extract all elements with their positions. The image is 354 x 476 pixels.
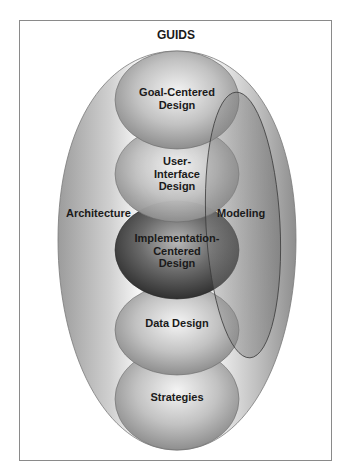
sphere-ui-label: User- Interface Design	[127, 155, 227, 193]
sphere-ui-line1: User-	[127, 155, 227, 168]
architecture-label: Architecture	[66, 207, 131, 220]
sphere-impl-label: Implementation- Centered Design	[117, 232, 237, 270]
sphere-strategies-label: Strategies	[127, 391, 227, 404]
modeling-label: Modeling	[217, 207, 265, 220]
sphere-ui-line2: Interface	[127, 168, 227, 181]
sphere-goal-label: Goal-Centered Design	[127, 86, 227, 111]
sphere-goal-line1: Goal-Centered	[127, 86, 227, 99]
sphere-impl-line2: Centered	[117, 245, 237, 258]
sphere-data-label: Data Design	[127, 317, 227, 330]
sphere-ui-line3: Design	[127, 180, 227, 193]
sphere-goal-line2: Design	[127, 99, 227, 112]
diagram-title: GUIDS	[157, 29, 195, 42]
sphere-impl-line1: Implementation-	[117, 232, 237, 245]
sphere-impl-line3: Design	[117, 257, 237, 270]
